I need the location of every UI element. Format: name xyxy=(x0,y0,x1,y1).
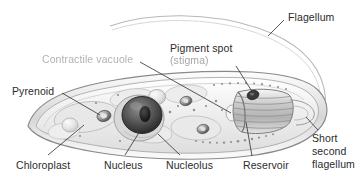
euglena-illustration xyxy=(0,0,362,184)
label-contractile-vacuole: Contractile vacuole xyxy=(42,54,133,66)
label-pyrenoid: Pyrenoid xyxy=(12,86,54,98)
euglena-diagram: Flagellum Pigment spot (stigma) Contract… xyxy=(0,0,362,184)
label-flagellum: Flagellum xyxy=(288,12,334,24)
label-nucleolus: Nucleolus xyxy=(166,160,213,172)
label-reservoir: Reservoir xyxy=(243,160,289,172)
label-pigment-spot-stigma: (stigma) xyxy=(170,55,209,67)
reservoir-shape xyxy=(233,89,294,133)
label-short-second-flagellum-line3: flagellum xyxy=(312,158,355,170)
label-short-second-flagellum-line2: second xyxy=(312,145,346,157)
nucleus-shape xyxy=(114,95,164,141)
label-chloroplast: Chloroplast xyxy=(16,160,70,172)
label-pigment-spot: Pigment spot xyxy=(170,43,232,55)
nucleolus-shape xyxy=(140,106,151,122)
label-nucleus: Nucleus xyxy=(104,160,143,172)
leader-flagellum xyxy=(268,20,284,36)
label-short-second-flagellum-line1: Short xyxy=(312,132,338,144)
